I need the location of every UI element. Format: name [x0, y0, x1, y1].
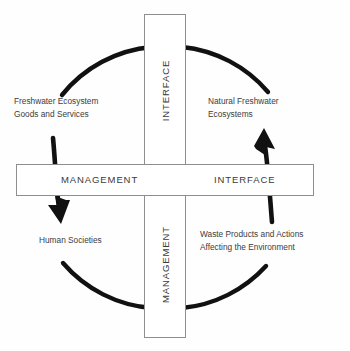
- node-label-line1: Freshwater Ecosystem: [14, 95, 98, 108]
- arrow-up-right-head: [254, 128, 275, 155]
- node-label-line1: Waste Products and Actions: [200, 228, 303, 241]
- node-label-line1: Human Societies: [39, 234, 102, 247]
- horizontal-bar-interface-label: INTERFACE: [214, 165, 275, 195]
- arc-top-right: [182, 47, 268, 92]
- node-label-line2: Goods and Services: [14, 108, 98, 121]
- arrow-down-left-head: [48, 196, 70, 224]
- vertical-bar-management-label: MANAGEMENT: [145, 189, 187, 339]
- horizontal-bar-management-label: MANAGEMENT: [61, 165, 138, 195]
- arc-top-left: [62, 47, 152, 95]
- node-label-line2: Ecosystems: [208, 108, 279, 121]
- node-label-human-societies: Human Societies: [39, 234, 102, 247]
- arc-bottom-right: [182, 266, 266, 308]
- arc-bottom-left: [63, 263, 152, 308]
- vertical-bar-interface-label: INTERFACE: [145, 15, 187, 165]
- node-label-line1: Natural Freshwater: [208, 95, 279, 108]
- node-label-waste-products: Waste Products and Actions Affecting the…: [200, 228, 303, 254]
- node-label-natural-ecosystems: Natural Freshwater Ecosystems: [208, 95, 279, 121]
- node-label-freshwater-goods: Freshwater Ecosystem Goods and Services: [14, 95, 98, 121]
- node-label-line2: Affecting the Environment: [200, 241, 303, 254]
- horizontal-management-interface-bar: MANAGEMENT INTERFACE: [16, 164, 314, 196]
- diagram-canvas: INTERFACE MANAGEMENT MANAGEMENT INTERFAC…: [0, 0, 350, 351]
